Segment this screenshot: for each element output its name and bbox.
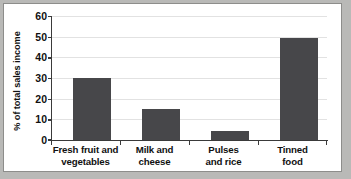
y-tick-label-20: 20: [25, 93, 47, 104]
bar-milk-and-cheese: [142, 109, 180, 140]
chart-card: % of total sales income 60 50 40 30 20 1…: [3, 3, 342, 172]
y-tick-label-60: 60: [25, 11, 47, 22]
y-tickmark-30: [48, 78, 52, 79]
gridline-60: [52, 16, 327, 17]
bar-chart: % of total sales income 60 50 40 30 20 1…: [4, 4, 341, 171]
x-label-line2: food: [252, 156, 333, 168]
bar-fresh-fruit-and-vegetables: [73, 78, 111, 140]
y-tick-label-50: 50: [25, 31, 47, 42]
y-tick-label-0: 0: [25, 135, 47, 146]
x-axis-tick-labels: Fresh fruit and vegetables Milk and chee…: [51, 144, 327, 172]
x-label-tinned-food: Tinned food: [252, 144, 333, 167]
y-tick-label-40: 40: [25, 52, 47, 63]
x-label-line1: Tinned: [252, 144, 333, 156]
y-tickmark-20: [48, 99, 52, 100]
y-tick-label-10: 10: [25, 114, 47, 125]
y-axis-tick-labels: 60 50 40 30 20 10 0: [21, 4, 47, 171]
y-tickmark-60: [48, 16, 52, 17]
y-tickmark-10: [48, 119, 52, 120]
bar-tinned-food: [280, 38, 318, 140]
plot-area: [51, 16, 327, 140]
y-tickmark-50: [48, 37, 52, 38]
bar-pulses-and-rice: [211, 131, 249, 140]
y-tickmark-40: [48, 57, 52, 58]
y-tick-label-30: 30: [25, 73, 47, 84]
